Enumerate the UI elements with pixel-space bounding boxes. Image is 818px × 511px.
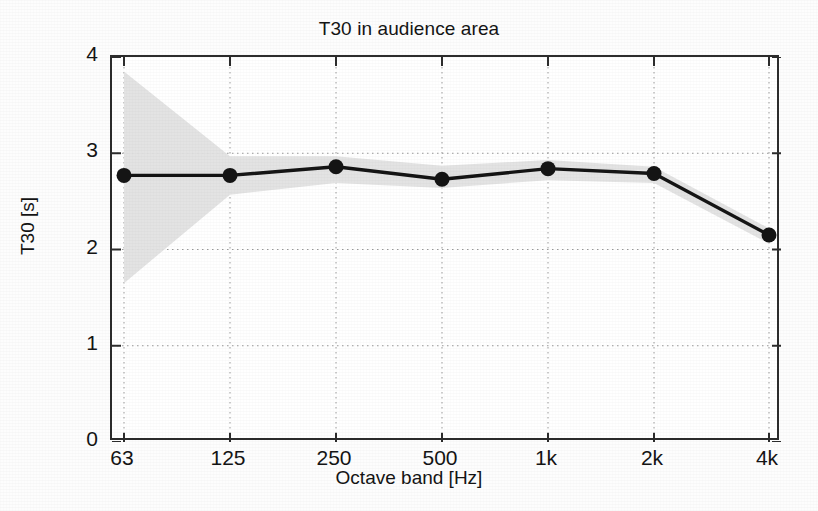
y-tick-label-3: 3 <box>52 138 98 162</box>
x-axis-title: Octave band [Hz] <box>0 467 818 489</box>
grid-lines <box>112 57 781 442</box>
y-axis-title: T30 [s] <box>17 136 39 316</box>
chart-title: T30 in audience area <box>0 18 818 40</box>
plot-svg <box>112 57 781 442</box>
figure-canvas: T30 in audience area 4 3 2 1 0 63 125 25… <box>0 0 818 511</box>
plot-area <box>110 55 779 440</box>
y-tick-label-1: 1 <box>52 331 98 355</box>
y-tick-label-2: 2 <box>52 235 98 259</box>
y-tick-label-4: 4 <box>52 42 98 66</box>
